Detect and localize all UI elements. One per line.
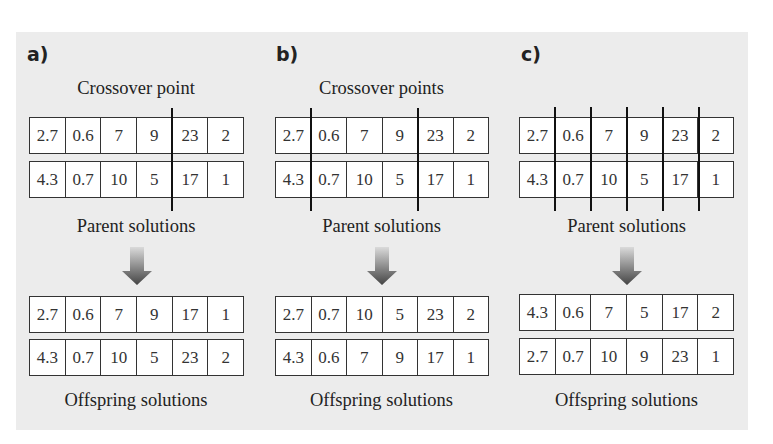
gene-cell: 2 xyxy=(698,118,733,153)
gene-cell: 1 xyxy=(698,162,733,197)
gene-cell: 9 xyxy=(627,339,663,374)
gene-cell: 23 xyxy=(663,118,699,153)
gene-cell: 17 xyxy=(663,295,699,330)
gene-cell: 5 xyxy=(627,295,663,330)
crossover-line xyxy=(698,107,700,211)
gene-cell: 7 xyxy=(591,118,627,153)
crossover-line xyxy=(554,107,556,211)
gene-cell: 10 xyxy=(591,162,627,197)
gene-cell: 5 xyxy=(627,162,663,197)
crossover-line xyxy=(626,107,628,211)
panel-label: c) xyxy=(521,42,541,66)
panel-uniform-crossover: c) 2.7 0.6 7 9 23 2 4.3 0.7 10 5 17 1 Pa… xyxy=(0,0,773,444)
gene-cell: 2 xyxy=(698,295,733,330)
gene-cell: 1 xyxy=(698,339,733,374)
gene-cell: 17 xyxy=(663,162,699,197)
gene-cell: 2.7 xyxy=(520,339,556,374)
down-arrow-icon xyxy=(612,247,642,285)
offspring-caption: Offspring solutions xyxy=(519,389,734,411)
gene-cell: 10 xyxy=(591,339,627,374)
gene-cell: 4.3 xyxy=(520,162,556,197)
crossover-line xyxy=(590,107,592,211)
gene-cell: 7 xyxy=(591,295,627,330)
crossover-line xyxy=(662,107,664,211)
gene-cell: 0.6 xyxy=(556,118,592,153)
gene-cell: 9 xyxy=(627,118,663,153)
gene-cell: 2.7 xyxy=(520,118,556,153)
gene-cell: 0.7 xyxy=(556,339,592,374)
gene-cell: 23 xyxy=(663,339,699,374)
gene-cell: 0.6 xyxy=(556,295,592,330)
offspring-row-2: 2.7 0.7 10 9 23 1 xyxy=(519,338,734,375)
offspring-row-1: 4.3 0.6 7 5 17 2 xyxy=(519,294,734,331)
gene-cell: 0.7 xyxy=(556,162,592,197)
parent-caption: Parent solutions xyxy=(519,215,734,237)
gene-cell: 4.3 xyxy=(520,295,556,330)
